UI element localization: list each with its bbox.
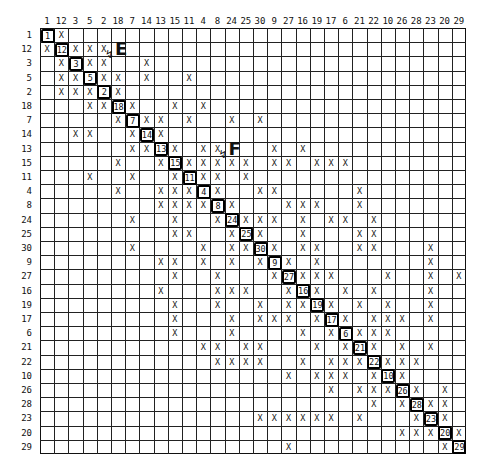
diagonal-element: 17: [325, 313, 339, 327]
matrix-mark: X: [83, 85, 97, 99]
matrix-mark: X: [196, 340, 210, 354]
matrix-mark: X: [196, 255, 210, 269]
matrix-mark: X: [395, 426, 409, 440]
diagonal-element: 8: [211, 199, 225, 213]
matrix-mark: X: [281, 411, 295, 425]
matrix-mark: X: [281, 298, 295, 312]
matrix-mark: X: [253, 411, 267, 425]
matrix-mark: X: [111, 85, 125, 99]
matrix-mark: X: [296, 298, 310, 312]
column-label: 28: [409, 16, 423, 26]
matrix-mark: X: [54, 28, 68, 42]
diagonal-element: 15: [168, 156, 182, 170]
matrix-mark: X: [182, 113, 196, 127]
matrix-mark: X: [310, 269, 324, 283]
row-label: 28: [8, 399, 32, 409]
matrix-mark: X: [452, 426, 466, 440]
matrix-mark: X: [310, 312, 324, 326]
grid-line: [338, 28, 339, 454]
matrix-mark: X: [423, 255, 437, 269]
row-label: 13: [8, 144, 32, 154]
matrix-mark: X: [381, 383, 395, 397]
matrix-mark: X: [267, 269, 281, 283]
column-label: 15: [168, 16, 182, 26]
matrix-mark: X: [281, 284, 295, 298]
grid-line: [40, 269, 466, 270]
matrix-mark: X: [168, 99, 182, 113]
matrix-mark: X: [83, 99, 97, 113]
diagonal-element: 6: [339, 327, 353, 341]
matrix-mark: X: [154, 198, 168, 212]
row-label: 7: [8, 115, 32, 125]
matrix-mark: X: [296, 355, 310, 369]
matrix-mark: X: [154, 255, 168, 269]
matrix-mark: X: [239, 241, 253, 255]
matrix-mark: X: [111, 156, 125, 170]
matrix-mark: X: [267, 241, 281, 255]
matrix-mark: X: [296, 198, 310, 212]
column-label: 6: [338, 16, 352, 26]
matrix-mark: X: [267, 411, 281, 425]
column-label: 12: [54, 16, 68, 26]
matrix-mark: X: [225, 326, 239, 340]
matrix-mark: X: [352, 241, 366, 255]
matrix-mark: X: [168, 255, 182, 269]
matrix-mark: X: [253, 340, 267, 354]
matrix-mark: X: [267, 184, 281, 198]
matrix-mark: X: [281, 369, 295, 383]
matrix-mark: X: [54, 71, 68, 85]
matrix-mark: X: [338, 156, 352, 170]
matrix-mark: X: [182, 227, 196, 241]
matrix-mark: X: [239, 284, 253, 298]
matrix-mark: X: [210, 184, 224, 198]
diagonal-element: 18: [112, 100, 126, 114]
matrix-mark: X: [352, 184, 366, 198]
matrix-mark: X: [352, 355, 366, 369]
matrix-mark: X: [168, 198, 182, 212]
matrix-mark: X: [196, 99, 210, 113]
matrix-mark: X: [210, 213, 224, 227]
matrix-mark: X: [296, 213, 310, 227]
grid-line: [40, 440, 466, 441]
matrix-mark: X: [139, 113, 153, 127]
row-label: 30: [8, 243, 32, 253]
matrix-mark: X: [367, 312, 381, 326]
matrix-mark: X: [225, 241, 239, 255]
matrix-mark: X: [381, 298, 395, 312]
row-label: 1: [8, 30, 32, 40]
row-label: 26: [8, 385, 32, 395]
matrix-mark: X: [253, 113, 267, 127]
matrix-mark: X: [381, 312, 395, 326]
row-label: 5: [8, 73, 32, 83]
diagonal-element: 24: [225, 213, 239, 227]
diagonal-element: 14: [140, 128, 154, 142]
matrix-mark: X: [281, 156, 295, 170]
matrix-mark: X: [125, 127, 139, 141]
matrix-mark: X: [296, 241, 310, 255]
matrix-mark: X: [182, 184, 196, 198]
matrix-mark: X: [423, 312, 437, 326]
matrix-mark: X: [239, 213, 253, 227]
matrix-mark: X: [253, 184, 267, 198]
matrix-mark: X: [267, 213, 281, 227]
row-label: 4: [8, 186, 32, 196]
diagonal-element: 4: [197, 185, 211, 199]
matrix-mark: X: [196, 156, 210, 170]
matrix-mark: X: [196, 142, 210, 156]
matrix-mark: X: [296, 227, 310, 241]
column-label: 4: [196, 16, 210, 26]
matrix-mark: X: [97, 99, 111, 113]
matrix-mark: X: [225, 355, 239, 369]
row-label: 18: [8, 101, 32, 111]
matrix-mark: X: [324, 298, 338, 312]
matrix-mark: X: [352, 298, 366, 312]
matrix-mark: X: [253, 355, 267, 369]
matrix-mark: X: [253, 312, 267, 326]
matrix-mark: X: [423, 241, 437, 255]
matrix-mark: X: [253, 227, 267, 241]
matrix-mark: X: [139, 56, 153, 70]
matrix-mark: X: [253, 298, 267, 312]
row-label: 25: [8, 229, 32, 239]
diagonal-element: 23: [424, 412, 438, 426]
column-label: 26: [395, 16, 409, 26]
